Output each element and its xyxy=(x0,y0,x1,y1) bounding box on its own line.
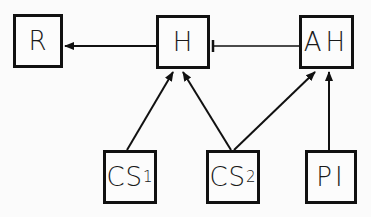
node-ah-label: AH xyxy=(304,27,349,57)
node-ah: AH xyxy=(299,15,354,69)
node-cs1-label: CS xyxy=(106,162,143,192)
node-r: R xyxy=(13,14,63,68)
node-cs2-label: CS xyxy=(209,162,246,192)
node-cs2: CS2 xyxy=(206,150,260,204)
diagram-canvas: R H AH CS1 CS2 PI xyxy=(0,0,371,217)
node-h-label: H xyxy=(173,27,194,57)
node-r-label: R xyxy=(28,26,47,56)
edge-cs1-to-h xyxy=(127,72,173,150)
node-pi-label: PI xyxy=(316,162,345,192)
edge-cs2-to-h xyxy=(183,72,231,150)
node-cs1: CS1 xyxy=(103,150,157,204)
node-pi: PI xyxy=(305,150,357,204)
node-cs1-subscript: 1 xyxy=(143,168,154,186)
node-cs2-subscript: 2 xyxy=(246,168,257,186)
node-h: H xyxy=(156,15,210,69)
edge-cs2-to-ah xyxy=(234,72,315,150)
